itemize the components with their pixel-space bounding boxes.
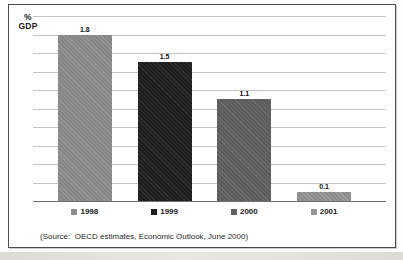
legend-marker-icon: [231, 209, 237, 215]
legend-label: 1998: [80, 207, 98, 216]
bar-slot-1998: 1.8: [45, 16, 125, 201]
bar-value-label: 1.8: [80, 26, 90, 33]
bar-slot-1999: 1.5: [125, 16, 205, 201]
legend-item-1999: 1999: [125, 207, 205, 216]
scanned-chart-page: % GDP 1.81.51.10.1 1998199920002001 (Sou…: [0, 0, 403, 260]
legend: 1998199920002001: [33, 207, 386, 216]
bar-slot-2001: 0.1: [284, 16, 364, 201]
bar-2000: [217, 99, 271, 201]
source-note: (Source: OECD estimates, Economic Outloo…: [40, 232, 248, 241]
bar-value-label: 1.1: [240, 90, 250, 97]
legend-label: 1999: [160, 207, 178, 216]
bar-slots: 1.81.51.10.1: [33, 16, 386, 201]
bar-1998: [58, 35, 112, 202]
page-edge-shadow: [0, 252, 403, 260]
plot-area: 1.81.51.10.1: [33, 16, 386, 202]
legend-item-2000: 2000: [205, 207, 285, 216]
bar-slot-2000: 1.1: [205, 16, 285, 201]
bar-value-label: 0.1: [319, 183, 329, 190]
legend-item-2001: 2001: [284, 207, 364, 216]
legend-marker-icon: [71, 209, 77, 215]
chart-frame: % GDP 1.81.51.10.1 1998199920002001 (Sou…: [8, 4, 396, 248]
legend-item-1998: 1998: [45, 207, 125, 216]
legend-marker-icon: [311, 209, 317, 215]
bar-2001: [297, 192, 351, 201]
bar-value-label: 1.5: [160, 53, 170, 60]
legend-label: 2001: [320, 207, 338, 216]
legend-label: 2000: [240, 207, 258, 216]
bar-1999: [138, 62, 192, 201]
legend-marker-icon: [151, 209, 157, 215]
